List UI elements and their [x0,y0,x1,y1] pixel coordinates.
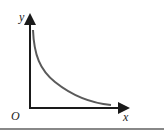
decreasing-curve [33,30,111,105]
origin-label: O [11,110,20,122]
bottom-divider [0,128,164,130]
x-axis-label: x [123,111,128,123]
y-axis-label: y [19,11,24,23]
function-graph [0,0,164,133]
